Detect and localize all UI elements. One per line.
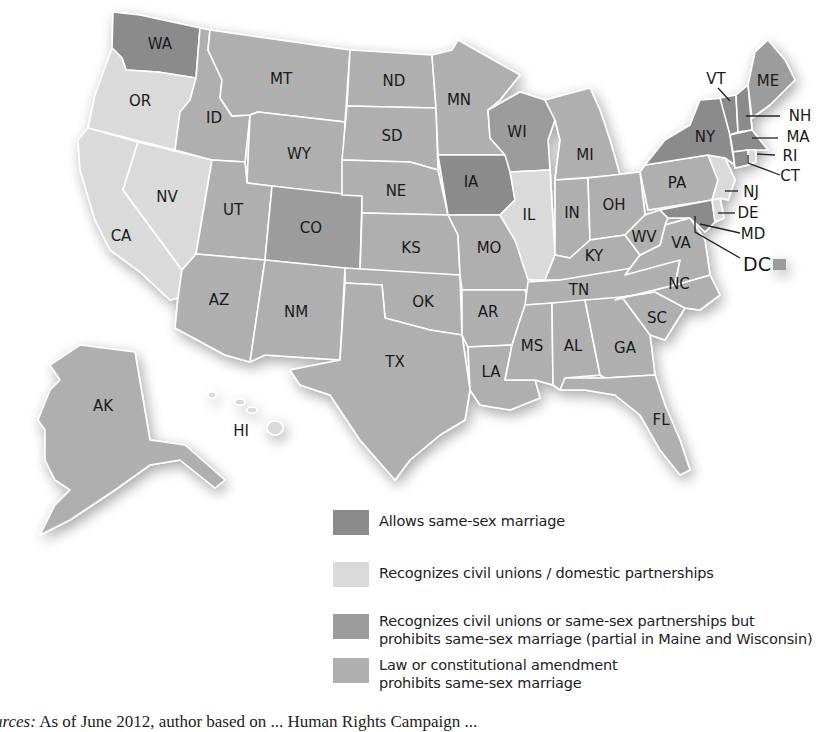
- label-WI: WI: [507, 123, 526, 141]
- label-VA: VA: [671, 234, 691, 252]
- state-MI[interactable]: [545, 88, 620, 180]
- label-NE: NE: [386, 182, 407, 200]
- legend-label: Law or constitutional amendment prohibit…: [379, 656, 617, 692]
- source-footer: urces: As of June 2012, author based on …: [0, 712, 477, 732]
- legend-item-partial: Recognizes civil unions or same-sex part…: [333, 612, 812, 648]
- label-AR: AR: [478, 303, 499, 321]
- label-LA: LA: [482, 363, 502, 381]
- state-RI[interactable]: [748, 150, 756, 165]
- label-WV: WV: [631, 228, 657, 246]
- label-VT: VT: [706, 70, 726, 88]
- label-SD: SD: [381, 127, 402, 145]
- states-layer: [38, 12, 795, 535]
- legend-item-civil: Recognizes civil unions / domestic partn…: [333, 560, 714, 587]
- label-SC: SC: [647, 309, 667, 327]
- label-NV: NV: [156, 188, 178, 206]
- label-ID: ID: [206, 109, 222, 127]
- legend-swatch-prohibits: [333, 658, 369, 683]
- legend-label: Recognizes civil unions / domestic partn…: [379, 564, 714, 582]
- label-NC: NC: [668, 275, 690, 293]
- label-NJ: NJ: [743, 183, 759, 201]
- legend-swatch-civil: [333, 562, 369, 587]
- label-TN: TN: [568, 281, 589, 299]
- label-DC: DC: [743, 253, 771, 275]
- label-GA: GA: [614, 339, 637, 357]
- label-FL: FL: [653, 411, 671, 429]
- state-MA[interactable]: [730, 130, 768, 152]
- label-MT: MT: [270, 70, 293, 88]
- label-ME: ME: [757, 72, 779, 90]
- legend-label: Allows same-sex marriage: [379, 512, 565, 530]
- label-IL: IL: [523, 206, 536, 224]
- label-NM: NM: [284, 303, 308, 321]
- label-KY: KY: [585, 247, 604, 265]
- label-MA: MA: [786, 128, 810, 146]
- label-OH: OH: [602, 196, 625, 214]
- label-CO: CO: [300, 219, 322, 237]
- state-DE[interactable]: [712, 198, 724, 222]
- label-IA: IA: [464, 173, 479, 191]
- label-MI: MI: [576, 146, 593, 164]
- label-CT: CT: [780, 167, 800, 185]
- legend-item-allows: Allows same-sex marriage: [333, 508, 565, 535]
- state-AK[interactable]: [38, 345, 225, 535]
- label-AK: AK: [93, 397, 114, 415]
- label-AZ: AZ: [209, 291, 230, 309]
- label-CA: CA: [111, 227, 132, 245]
- label-MD: MD: [741, 225, 766, 243]
- label-AL: AL: [564, 337, 583, 355]
- label-WY: WY: [287, 145, 312, 163]
- label-HI: HI: [233, 422, 249, 440]
- label-NY: NY: [695, 128, 716, 146]
- legend-item-prohibits: Law or constitutional amendment prohibit…: [333, 656, 617, 692]
- label-IN: IN: [564, 204, 580, 222]
- legend-swatch-allows: [333, 510, 369, 535]
- label-TX: TX: [384, 353, 404, 371]
- label-PA: PA: [668, 174, 687, 192]
- label-DE: DE: [737, 204, 758, 222]
- label-RI: RI: [783, 147, 798, 165]
- label-MS: MS: [521, 337, 543, 355]
- label-KS: KS: [401, 239, 420, 257]
- source-prefix: urces:: [0, 712, 36, 731]
- state-NY[interactable]: [645, 98, 735, 165]
- label-NH: NH: [789, 107, 812, 125]
- label-MN: MN: [447, 91, 471, 109]
- legend-swatch-partial: [333, 614, 369, 639]
- label-UT: UT: [223, 201, 244, 219]
- state-CT[interactable]: [733, 150, 748, 168]
- label-ND: ND: [383, 72, 406, 90]
- legend-label: Recognizes civil unions or same-sex part…: [379, 612, 812, 648]
- label-WA: WA: [148, 35, 173, 53]
- label-OK: OK: [412, 293, 435, 311]
- source-text: As of June 2012, author based on ... Hum…: [36, 712, 478, 731]
- label-OR: OR: [129, 92, 151, 110]
- label-MO: MO: [477, 239, 502, 257]
- state-DC-swatch[interactable]: [773, 259, 786, 270]
- state-FL[interactable]: [560, 375, 690, 475]
